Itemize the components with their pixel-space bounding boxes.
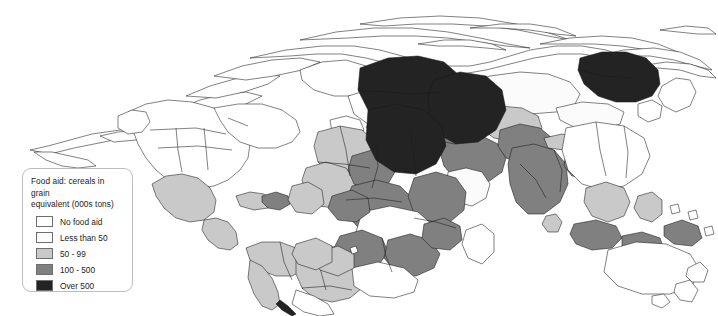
- legend-label-no-food-aid: No food aid: [60, 217, 102, 227]
- region-india: [508, 144, 568, 214]
- legend-item-over-500: Over 500: [36, 278, 125, 294]
- region-tasmania: [652, 294, 670, 308]
- legend-label-100-500: 100 - 500: [60, 265, 95, 275]
- region-china: [562, 122, 650, 190]
- region-indonesia-west: [570, 220, 622, 250]
- region-papua-new-guinea: [664, 220, 702, 246]
- region-madagascar: [462, 224, 494, 264]
- legend-item-less-than-50: Less than 50: [36, 230, 125, 246]
- legend-title-line-1: Food aid: cereals in grain: [31, 176, 125, 199]
- region-south-korea: [638, 100, 662, 122]
- cartogram-figure: Food aid: cereals in grain equivalent (0…: [0, 0, 718, 316]
- legend-item-100-500: 100 - 500: [36, 262, 125, 278]
- legend-swatch-50-99: [36, 248, 53, 259]
- legend-swatch-no-food-aid: [36, 216, 53, 227]
- legend-label-50-99: 50 - 99: [60, 249, 86, 259]
- map-legend: Food aid: cereals in grain equivalent (0…: [22, 168, 133, 292]
- region-new-zealand-south: [674, 280, 698, 302]
- region-central-america: [202, 218, 238, 250]
- legend-title-line-2: equivalent (000s tons): [31, 199, 125, 211]
- region-sri-lanka: [542, 214, 562, 232]
- region-southeast-asia: [584, 182, 630, 222]
- region-philippines: [634, 192, 662, 222]
- legend-swatch-less-than-50: [36, 232, 53, 243]
- legend-title: Food aid: cereals in grain equivalent (0…: [31, 176, 125, 211]
- legend-label-over-500: Over 500: [60, 281, 94, 291]
- island-pacific-2: [688, 210, 698, 220]
- legend-item-no-food-aid: No food aid: [36, 214, 125, 230]
- legend-swatch-100-500: [36, 264, 53, 275]
- island-pacific-3: [670, 204, 680, 214]
- legend-item-50-99: 50 - 99: [36, 246, 125, 262]
- legend-label-less-than-50: Less than 50: [60, 233, 108, 243]
- legend-swatch-over-500: [36, 280, 53, 291]
- region-japan: [658, 78, 696, 112]
- island-pacific-1: [704, 226, 714, 236]
